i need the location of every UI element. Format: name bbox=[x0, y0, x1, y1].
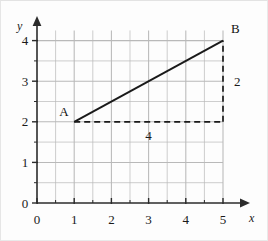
x-tick-label: 0 bbox=[34, 212, 41, 227]
y-tick-label: 1 bbox=[22, 155, 29, 170]
x-axis-label: x bbox=[248, 211, 255, 225]
run-label: 4 bbox=[145, 128, 152, 143]
coordinate-plane-chart: 012345 01234 AB42 y x bbox=[0, 0, 268, 241]
point-b-label: B bbox=[231, 21, 240, 36]
y-tick-label: 0 bbox=[22, 196, 29, 211]
rise-label: 2 bbox=[234, 74, 241, 89]
y-axis-label: y bbox=[16, 19, 23, 33]
y-tick-label: 4 bbox=[22, 33, 29, 48]
graph-figure: 012345 01234 AB42 y x bbox=[0, 0, 268, 241]
x-tick-label: 2 bbox=[108, 212, 115, 227]
point-a-label: A bbox=[59, 104, 69, 119]
x-tick-label: 1 bbox=[71, 212, 78, 227]
x-axis-arrowhead bbox=[240, 199, 250, 208]
y-tick-labels: 01234 bbox=[22, 33, 29, 210]
y-axis-arrowhead bbox=[33, 16, 42, 26]
x-tick-labels: 012345 bbox=[34, 212, 227, 227]
y-tick-label: 2 bbox=[22, 114, 29, 129]
x-tick-label: 4 bbox=[183, 212, 190, 227]
x-tick-label: 3 bbox=[145, 212, 152, 227]
y-tick-label: 3 bbox=[22, 74, 29, 89]
x-tick-label: 5 bbox=[220, 212, 227, 227]
